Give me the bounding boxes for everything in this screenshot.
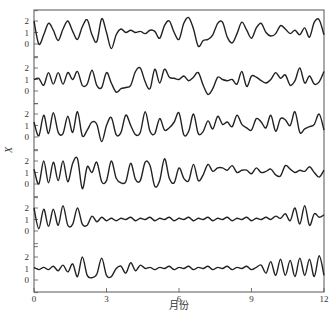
y-tick-label: 0 — [25, 86, 30, 96]
x-axis-label: 月份 — [169, 300, 189, 311]
y-tick-label: 2 — [25, 203, 30, 213]
y-tick-label: 1 — [25, 168, 30, 178]
plot-border — [34, 10, 324, 292]
y-tick-label: 2 — [25, 109, 30, 119]
y-tick-label: 0 — [25, 39, 30, 49]
panel-3: 210 — [25, 104, 325, 150]
series-line — [34, 67, 324, 94]
y-tick-label: 0 — [25, 226, 30, 236]
panel-4: 210 — [25, 151, 325, 197]
y-tick-label: 1 — [25, 28, 30, 38]
x-tick-label: 0 — [32, 294, 37, 304]
x-tick-label: 3 — [104, 294, 109, 304]
y-tick-label: 1 — [25, 121, 30, 131]
y-tick-label: 1 — [25, 264, 30, 274]
x-tick-label: 12 — [320, 294, 329, 304]
y-tick-label: 1 — [25, 215, 30, 225]
x-tick-label: 9 — [249, 294, 254, 304]
panel-6: 210 — [25, 247, 325, 293]
panels: 210210210210210210 — [25, 11, 325, 293]
series-line — [34, 157, 324, 189]
panel-2: 210 — [25, 58, 325, 104]
plot-frame — [34, 10, 324, 292]
series-line — [34, 256, 324, 278]
y-tick-label: 2 — [25, 156, 30, 166]
chart: 210210210210210210 036912 月份 X — [0, 0, 333, 323]
y-axis-label: X — [3, 146, 14, 154]
y-tick-label: 0 — [25, 179, 30, 189]
series-line — [34, 206, 324, 229]
panel-5: 210 — [25, 198, 325, 244]
y-tick-label: 2 — [25, 252, 30, 262]
y-tick-label: 0 — [25, 275, 30, 285]
y-tick-label: 0 — [25, 132, 30, 142]
panel-1: 210 — [25, 11, 325, 57]
y-tick-label: 2 — [25, 16, 30, 26]
y-tick-label: 1 — [25, 75, 30, 85]
y-tick-label: 2 — [25, 63, 30, 73]
series-line — [34, 112, 324, 142]
series-line — [34, 17, 324, 48]
